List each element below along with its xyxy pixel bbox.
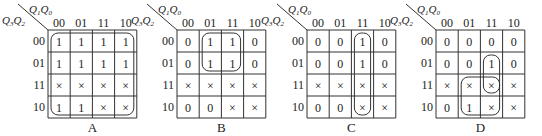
cell-value: 1 bbox=[360, 57, 366, 71]
cell-value: 0 bbox=[207, 101, 213, 115]
column-header: 00 bbox=[441, 16, 453, 30]
dont-care-cell: × bbox=[185, 79, 192, 93]
row-header: 10 bbox=[162, 100, 174, 114]
cell-value: 0 bbox=[337, 101, 343, 115]
map-caption: A bbox=[88, 120, 98, 135]
column-header: 01 bbox=[463, 16, 475, 30]
cell-value: 0 bbox=[252, 57, 258, 71]
dont-care-cell: × bbox=[466, 79, 473, 93]
cell-value: 1 bbox=[56, 57, 62, 71]
dont-care-cell: × bbox=[251, 79, 258, 93]
cell-value: 0 bbox=[444, 35, 450, 49]
cell-value: 0 bbox=[489, 35, 495, 49]
row-variables-label: Q3Q2 bbox=[261, 14, 284, 28]
dont-care-cell: × bbox=[56, 79, 63, 93]
dont-care-cell: × bbox=[78, 79, 85, 93]
karnaugh-map-d: Q1Q0Q3Q2000111100001111000000010××××01××… bbox=[390, 3, 525, 135]
column-header: 11 bbox=[486, 16, 498, 30]
cell-value: 0 bbox=[511, 35, 517, 49]
cell-value: 1 bbox=[78, 101, 84, 115]
cell-value: 0 bbox=[466, 57, 472, 71]
dont-care-cell: × bbox=[100, 101, 107, 115]
cell-value: 0 bbox=[315, 57, 321, 71]
dont-care-cell: × bbox=[359, 79, 366, 93]
column-header: 10 bbox=[379, 16, 391, 30]
dont-care-cell: × bbox=[381, 101, 388, 115]
row-variables-label: Q3Q2 bbox=[2, 14, 25, 28]
karnaugh-map-a: Q1Q0Q3Q2000111100001111011111111××××11××… bbox=[2, 3, 137, 135]
dont-care-cell: × bbox=[488, 79, 495, 93]
column-header: 01 bbox=[334, 16, 346, 30]
row-header: 10 bbox=[421, 100, 433, 114]
row-header: 00 bbox=[33, 34, 45, 48]
column-header: 11 bbox=[227, 16, 239, 30]
cell-value: 1 bbox=[56, 101, 62, 115]
cell-value: 1 bbox=[123, 35, 129, 49]
map-caption: B bbox=[217, 120, 226, 135]
column-header: 10 bbox=[249, 16, 261, 30]
cell-value: 0 bbox=[337, 35, 343, 49]
column-header: 00 bbox=[53, 16, 65, 30]
cell-value: 0 bbox=[466, 35, 472, 49]
dont-care-cell: × bbox=[251, 101, 258, 115]
column-header: 11 bbox=[98, 16, 110, 30]
row-header: 10 bbox=[292, 100, 304, 114]
dont-care-cell: × bbox=[444, 79, 451, 93]
cell-value: 0 bbox=[185, 35, 191, 49]
dont-care-cell: × bbox=[510, 79, 517, 93]
karnaugh-maps-figure: Q1Q0Q3Q2000111100001111011111111××××11××… bbox=[0, 0, 542, 136]
row-header: 01 bbox=[33, 56, 45, 70]
dont-care-cell: × bbox=[207, 79, 214, 93]
row-header: 11 bbox=[162, 78, 174, 92]
cell-value: 0 bbox=[252, 35, 258, 49]
cell-value: 1 bbox=[360, 35, 366, 49]
dont-care-cell: × bbox=[510, 101, 517, 115]
row-header: 11 bbox=[421, 78, 433, 92]
cell-value: 1 bbox=[230, 57, 236, 71]
column-variables-label: Q1Q0 bbox=[158, 3, 181, 17]
dont-care-cell: × bbox=[100, 79, 107, 93]
karnaugh-map-c: Q1Q0Q3Q2000111100001111000100010××××00××… bbox=[261, 3, 396, 135]
dont-care-cell: × bbox=[359, 101, 366, 115]
cell-value: 0 bbox=[185, 57, 191, 71]
map-caption: C bbox=[347, 120, 356, 135]
cell-value: 0 bbox=[444, 57, 450, 71]
cell-value: 0 bbox=[511, 57, 517, 71]
dont-care-cell: × bbox=[122, 79, 129, 93]
cell-value: 0 bbox=[382, 35, 388, 49]
row-header: 01 bbox=[421, 56, 433, 70]
row-variables-label: Q3Q2 bbox=[131, 14, 154, 28]
cell-value: 0 bbox=[444, 101, 450, 115]
karnaugh-map-b: Q1Q0Q3Q2000111100001111001100110××××00××… bbox=[131, 3, 266, 135]
cell-value: 1 bbox=[101, 57, 107, 71]
column-variables-label: Q1Q0 bbox=[288, 3, 311, 17]
column-header: 01 bbox=[204, 16, 216, 30]
row-header: 00 bbox=[421, 34, 433, 48]
column-header: 11 bbox=[357, 16, 369, 30]
row-header: 01 bbox=[162, 56, 174, 70]
row-header: 01 bbox=[292, 56, 304, 70]
map-caption: D bbox=[476, 120, 485, 135]
cell-value: 1 bbox=[207, 35, 213, 49]
cell-value: 0 bbox=[315, 101, 321, 115]
dont-care-cell: × bbox=[229, 79, 236, 93]
dont-care-cell: × bbox=[337, 79, 344, 93]
dont-care-cell: × bbox=[488, 101, 495, 115]
column-variables-label: Q1Q0 bbox=[29, 3, 52, 17]
cell-value: 0 bbox=[315, 35, 321, 49]
cell-value: 1 bbox=[466, 101, 472, 115]
dont-care-cell: × bbox=[381, 79, 388, 93]
cell-value: 1 bbox=[101, 35, 107, 49]
row-header: 11 bbox=[292, 78, 304, 92]
dont-care-cell: × bbox=[229, 101, 236, 115]
cell-value: 0 bbox=[382, 57, 388, 71]
cell-value: 1 bbox=[78, 57, 84, 71]
row-header: 00 bbox=[162, 34, 174, 48]
cell-value: 1 bbox=[78, 35, 84, 49]
row-header: 00 bbox=[292, 34, 304, 48]
column-header: 10 bbox=[120, 16, 132, 30]
dont-care-cell: × bbox=[315, 79, 322, 93]
column-header: 10 bbox=[508, 16, 520, 30]
cell-value: 1 bbox=[489, 57, 495, 71]
cell-value: 0 bbox=[337, 57, 343, 71]
